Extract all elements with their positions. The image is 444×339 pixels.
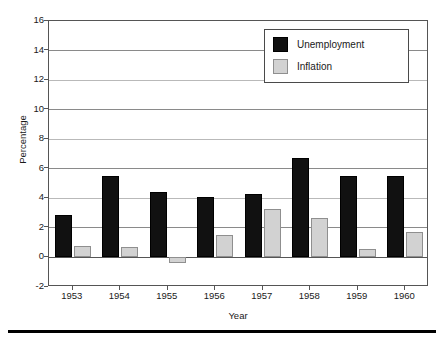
bar-unemployment-1956 [197,197,214,258]
y-tick-mark [44,167,48,168]
x-tick-mark [167,286,168,290]
x-tick-mark [357,286,358,290]
y-tick-label: 4 [14,192,44,202]
x-axis-title: Year [48,310,428,321]
bar-inflation-1953 [74,246,91,258]
bar-chart-figure: Percentage -20246810121416 Year Unemploy… [0,0,444,339]
bar-unemployment-1958 [292,158,309,257]
y-axis-tick-labels: -20246810121416 [10,20,44,286]
x-tick-mark [72,286,73,290]
y-tick-label: -2 [14,281,44,291]
legend-label-inflation: Inflation [297,61,332,72]
bar-inflation-1959 [359,249,376,258]
bar-unemployment-1960 [387,176,404,257]
legend-label-unemployment: Unemployment [297,39,364,50]
bar-inflation-1958 [311,218,328,258]
bar-inflation-1955 [169,257,186,263]
bar-unemployment-1953 [55,215,72,258]
gridline [49,139,427,140]
legend-swatch-unemployment [273,37,288,52]
y-tick-mark [44,226,48,227]
y-tick-mark [44,108,48,109]
y-tick-label: 10 [14,104,44,114]
bar-unemployment-1954 [102,176,119,257]
y-tick-label: 2 [14,222,44,232]
footer-rule [8,330,436,333]
y-tick-mark [44,20,48,21]
y-tick-mark [44,286,48,287]
x-tick-mark [309,286,310,290]
gridline [49,168,427,169]
y-tick-label: 14 [14,45,44,55]
gridline [49,109,427,110]
x-tick-mark [262,286,263,290]
y-tick-mark [44,79,48,80]
y-tick-label: 16 [14,15,44,25]
y-tick-mark [44,49,48,50]
chart-legend: Unemployment Inflation [264,29,409,83]
legend-swatch-inflation [273,59,288,74]
y-tick-label: 12 [14,74,44,84]
bar-inflation-1954 [121,247,138,257]
y-tick-mark [44,256,48,257]
bar-unemployment-1959 [340,176,357,257]
bar-unemployment-1957 [245,194,262,258]
bar-inflation-1956 [216,235,233,257]
y-tick-mark [44,197,48,198]
bar-inflation-1960 [406,232,423,257]
y-tick-label: 6 [14,163,44,173]
y-tick-mark [44,138,48,139]
y-tick-label: 8 [14,133,44,143]
x-tick-label: 1960 [374,290,434,301]
x-tick-mark [404,286,405,290]
y-tick-label: 0 [14,251,44,261]
bar-inflation-1957 [264,209,281,258]
bar-unemployment-1955 [150,192,167,257]
x-tick-mark [214,286,215,290]
x-tick-mark [119,286,120,290]
